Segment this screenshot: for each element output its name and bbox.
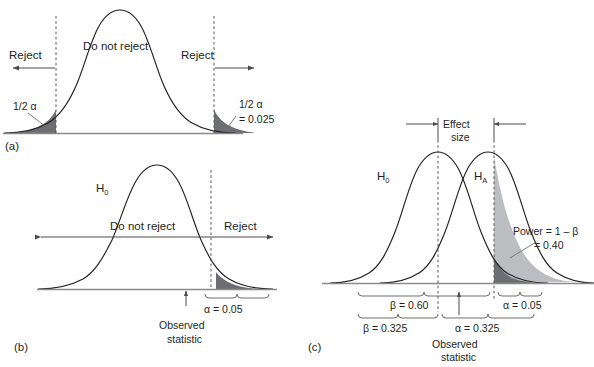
panel-b: H0 Do not reject Reject α = 0.05 Observe… <box>14 165 277 353</box>
panel-a-half-alpha-right-label: 1/2 α <box>239 98 263 110</box>
panel-c-beta-upper-label: β = 0.60 <box>390 299 429 311</box>
panel-c-observed-line1: Observed <box>432 338 478 350</box>
panel-c-beta-upper-brace <box>358 292 490 296</box>
panel-b-observed-line2: statistic <box>167 333 202 345</box>
panel-c-id: (c) <box>308 341 322 353</box>
panel-a-normal-curve <box>4 10 236 133</box>
panel-c-power-shade <box>494 158 580 282</box>
panel-a-half-alpha-left-label: 1/2 α <box>13 100 37 112</box>
panel-b-reject-label: Reject <box>224 220 257 232</box>
panel-c-ha-curve <box>380 152 594 283</box>
panel-b-observed-line1: Observed <box>159 319 205 331</box>
panel-a: Reject Do not reject Reject 1/2 α 1/2 α … <box>3 10 274 152</box>
panel-a-half-alpha-right-value: = 0.025 <box>239 113 274 125</box>
panel-c-beta-lower-brace <box>358 314 438 318</box>
panel-c-effect-line2: size <box>451 131 470 143</box>
panel-b-tail-shade <box>211 264 262 289</box>
panel-c-alpha-upper-brace <box>498 292 542 296</box>
panel-b-alpha-label: α = 0.05 <box>204 303 243 315</box>
panel-a-reject-left-label: Reject <box>9 49 42 61</box>
panel-c: Effect size H0 HA Power = 1 – β = 0.40 β… <box>308 118 594 363</box>
panel-c-beta-lower-label: β = 0.325 <box>363 322 407 334</box>
panel-c-power-line2: = 0.40 <box>534 239 564 251</box>
statistics-figure-svg: Reject Do not reject Reject 1/2 α 1/2 α … <box>0 0 594 367</box>
panel-b-alpha-brace <box>205 294 269 298</box>
panel-a-do-not-reject-label: Do not reject <box>83 40 149 52</box>
panel-c-alpha-lower-label: α = 0.325 <box>455 322 499 334</box>
panel-c-observed-line2: statistic <box>441 351 476 363</box>
panel-c-alpha-lower-brace <box>442 314 534 318</box>
panel-b-id: (b) <box>14 341 28 353</box>
panel-c-ha-label: HA <box>474 170 487 185</box>
panel-a-id: (a) <box>5 140 19 152</box>
figure-root: Reject Do not reject Reject 1/2 α 1/2 α … <box>0 0 594 367</box>
panel-c-h0-label: H0 <box>377 170 389 185</box>
panel-c-alpha-upper-label: α = 0.05 <box>503 299 542 311</box>
panel-b-h0-label: H0 <box>96 182 108 197</box>
panel-c-effect-line1: Effect <box>443 118 470 130</box>
panel-b-do-not-reject-label: Do not reject <box>110 220 176 232</box>
panel-c-power-line1: Power = 1 – β <box>513 225 578 237</box>
panel-a-reject-right-label: Reject <box>181 49 214 61</box>
